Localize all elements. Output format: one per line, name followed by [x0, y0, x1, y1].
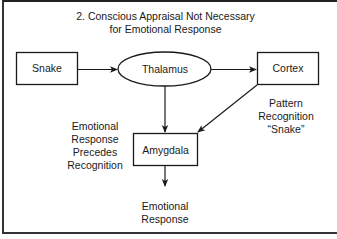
thalamus-label: Thalamus: [118, 63, 212, 75]
right-annotation: Pattern Recognition “Snake”: [251, 97, 321, 136]
right-annotation-line: Pattern: [251, 97, 321, 110]
left-annotation-line: Recognition: [60, 159, 130, 172]
snake-label: Snake: [16, 62, 78, 74]
output-annotation-line: Response: [125, 213, 205, 226]
left-annotation-line: Emotional: [60, 120, 130, 133]
output-annotation-line: Emotional: [125, 200, 205, 213]
cortex-label: Cortex: [257, 62, 319, 74]
right-annotation-line: Recognition: [251, 110, 321, 123]
arrow-cortex-amygdala: [198, 85, 257, 132]
output-annotation: Emotional Response: [125, 200, 205, 226]
left-annotation-line: Response: [60, 133, 130, 146]
right-annotation-line: “Snake”: [251, 123, 321, 136]
left-annotation: Emotional Response Precedes Recognition: [60, 120, 130, 172]
left-annotation-line: Precedes: [60, 146, 130, 159]
amygdala-label: Amygdala: [133, 144, 198, 156]
